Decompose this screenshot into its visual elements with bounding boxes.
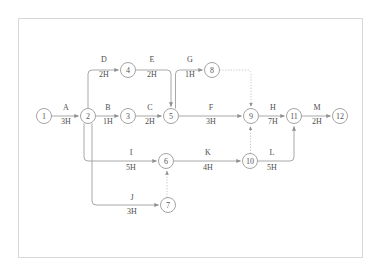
activity-label-M: M 2H <box>312 103 322 126</box>
activity-name: I <box>130 148 133 157</box>
activity-duration: 5H <box>126 163 136 172</box>
network-diagram-svg: 1 2 3 4 5 6 7 8 <box>0 0 383 278</box>
node-label: 6 <box>164 157 168 166</box>
activity-label-K: K 4H <box>203 148 213 172</box>
activity-label-C: C 2H <box>145 103 155 126</box>
node-2[interactable]: 2 <box>81 109 96 124</box>
edge-dummy-8-to-9 <box>220 70 252 107</box>
node-label: 9 <box>249 112 253 121</box>
activity-duration: 2H <box>99 70 109 79</box>
activity-name: H <box>270 103 276 112</box>
node-3[interactable]: 3 <box>121 109 136 124</box>
edge-activity-L <box>258 127 295 162</box>
activity-name: L <box>270 148 275 157</box>
activity-name: C <box>147 103 152 112</box>
activity-name: B <box>105 103 110 112</box>
activity-duration: 2H <box>145 117 155 126</box>
node-5[interactable]: 5 <box>164 109 179 124</box>
node-label: 10 <box>246 157 254 166</box>
activity-name: G <box>187 55 193 64</box>
activity-duration: 7H <box>268 117 278 126</box>
node-4[interactable]: 4 <box>121 63 136 78</box>
activity-duration: 3H <box>206 117 216 126</box>
activity-name: K <box>205 148 211 157</box>
activity-name: A <box>63 103 69 112</box>
edge-activity-I <box>84 124 157 162</box>
node-12[interactable]: 12 <box>333 109 348 124</box>
node-6[interactable]: 6 <box>159 154 174 169</box>
node-11[interactable]: 11 <box>287 109 302 124</box>
activity-duration: 3H <box>127 207 137 216</box>
activity-label-E: E 2H <box>147 55 157 79</box>
node-8[interactable]: 8 <box>205 63 220 78</box>
node-label: 5 <box>169 112 173 121</box>
diagram-canvas: 1 2 3 4 5 6 7 8 <box>0 0 383 278</box>
node-label: 2 <box>86 112 90 121</box>
node-7[interactable]: 7 <box>161 198 176 213</box>
node-label: 11 <box>290 112 298 121</box>
activity-duration: 2H <box>147 70 157 79</box>
activity-duration: 4H <box>203 163 213 172</box>
activity-name: E <box>150 55 155 64</box>
activity-duration: 1H <box>103 117 113 126</box>
node-label: 4 <box>126 66 130 75</box>
node-9[interactable]: 9 <box>244 109 259 124</box>
activity-duration: 3H <box>61 117 71 126</box>
activity-name: M <box>313 103 320 112</box>
activity-duration: 5H <box>267 163 277 172</box>
activity-name: D <box>101 55 107 64</box>
node-label: 7 <box>166 201 170 210</box>
activity-label-G: G 1H <box>185 55 195 79</box>
activity-name: F <box>209 103 214 112</box>
activity-label-F: F 3H <box>206 103 216 126</box>
activity-label-L: L 5H <box>267 148 277 172</box>
activity-duration: 1H <box>185 70 195 79</box>
activity-name: J <box>130 193 133 202</box>
activity-label-H: H 7H <box>268 103 278 126</box>
node-label: 3 <box>126 112 130 121</box>
activity-label-I: I 5H <box>126 148 136 172</box>
activity-label-B: B 1H <box>103 103 113 126</box>
node-label: 12 <box>336 112 344 121</box>
node-10[interactable]: 10 <box>243 154 258 169</box>
node-label: 8 <box>210 66 214 75</box>
node-label: 1 <box>42 112 46 121</box>
node-1[interactable]: 1 <box>37 109 52 124</box>
activity-duration: 2H <box>312 117 322 126</box>
activity-label-A: A 3H <box>61 103 71 126</box>
activity-label-D: D 2H <box>99 55 109 79</box>
